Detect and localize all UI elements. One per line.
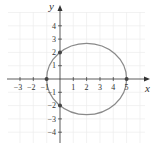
y-tick-label: 4	[52, 22, 56, 31]
y-axis-label: y	[48, 0, 54, 12]
y-tick-label: −4	[47, 128, 56, 137]
x-tick-label: 2	[85, 83, 89, 92]
x-tick-label: 1	[71, 83, 75, 92]
point-5-0	[125, 77, 129, 81]
y-tick-label: −3	[47, 115, 56, 124]
y-tick-label: 2	[52, 48, 56, 57]
x-tick-labels: −3 −2 −1 1 2 3 4 5	[14, 83, 129, 92]
y-axis-arrow-icon	[58, 5, 63, 11]
y-tick-label: −2	[47, 101, 56, 110]
coordinate-graph: −3 −2 −1 1 2 3 4 5 4 3 2 1 −1 −2 −3 −4 x…	[0, 0, 154, 146]
y-tick-label: −1	[47, 88, 56, 97]
x-tick-label: 3	[98, 83, 102, 92]
x-tick-label: 4	[111, 83, 115, 92]
y-tick-label: 3	[52, 35, 56, 44]
y-tick-label: 1	[52, 61, 56, 70]
x-tick-label: −2	[27, 83, 36, 92]
point-0-2	[58, 50, 62, 54]
x-tick-label: 5	[125, 83, 129, 92]
point-0-neg2	[58, 104, 62, 108]
x-tick-label: −3	[14, 83, 23, 92]
x-axis-arrow-icon	[144, 77, 150, 82]
point-neg1-0	[45, 77, 49, 81]
x-axis-label: x	[144, 82, 150, 94]
grid	[8, 12, 145, 143]
